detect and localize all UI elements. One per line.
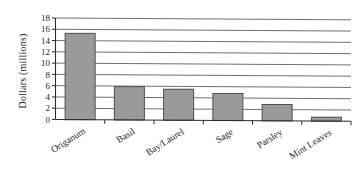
y-tick-label: 10 (41, 58, 51, 68)
gridline (56, 63, 352, 65)
y-axis-title-group: Dollars (millions) (17, 34, 29, 109)
bar (164, 89, 194, 120)
gridlines-group (56, 18, 352, 110)
category-label: Mint Leaves (288, 127, 334, 161)
y-tick-labels-group: 024681012141618 (41, 13, 51, 125)
gridline (56, 86, 352, 88)
category-label: Bay/Laurel (144, 126, 186, 157)
y-tick-label: 12 (41, 47, 50, 57)
bar (65, 33, 95, 119)
bars-group (65, 33, 341, 121)
y-tick-label: 4 (46, 92, 51, 102)
y-tick-label: 8 (46, 70, 51, 80)
y-tick-label: 0 (46, 115, 51, 125)
category-labels-group: OriganumBasilBay/LaurelSageParsleyMint L… (49, 126, 333, 162)
gridline (56, 97, 352, 99)
category-label: Basil (115, 126, 137, 145)
bar (213, 93, 243, 120)
y-axis-title: Dollars (millions) (17, 34, 29, 109)
gridline (56, 52, 352, 54)
gridline (56, 41, 352, 43)
gridline (56, 74, 352, 76)
y-tick-label: 16 (41, 24, 51, 34)
y-tick-label: 18 (41, 13, 51, 23)
category-label: Origanum (49, 126, 87, 155)
gridline (56, 29, 352, 31)
chart-canvas: Dollars (millions) 024681012141618 Origa… (0, 0, 357, 182)
y-tick-label: 6 (46, 81, 51, 91)
bar (114, 87, 144, 120)
gridline (56, 108, 352, 110)
category-label: Sage (214, 127, 235, 145)
category-label: Parsley (255, 127, 284, 150)
bar-chart-figure: Dollars (millions) 024681012141618 Origa… (0, 0, 357, 182)
bar (262, 104, 292, 120)
y-tick-label: 14 (41, 36, 51, 46)
gridline (56, 18, 352, 20)
y-tick-label: 2 (46, 103, 51, 113)
